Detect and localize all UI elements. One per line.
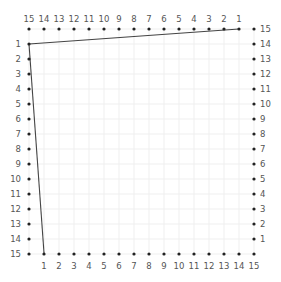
right-dot-13 — [252, 57, 255, 60]
right-label-1: 1 — [260, 234, 265, 244]
top-dot-1 — [237, 27, 240, 30]
bottom-dot-8 — [147, 252, 150, 255]
top-dot-15 — [27, 27, 30, 30]
right-dot-15 — [252, 27, 255, 30]
bottom-label-10: 10 — [174, 261, 185, 271]
top-label-15: 15 — [24, 14, 35, 24]
top-label-9: 9 — [116, 14, 121, 24]
right-dot-3 — [252, 207, 255, 210]
top-dot-11 — [87, 27, 90, 30]
left-label-3: 3 — [16, 69, 21, 79]
left-label-9: 9 — [16, 159, 21, 169]
bottom-label-12: 12 — [204, 261, 215, 271]
left-label-15: 15 — [10, 249, 21, 259]
left-label-12: 12 — [10, 204, 21, 214]
left-dot-13 — [27, 222, 30, 225]
left-label-8: 8 — [16, 144, 21, 154]
bottom-label-7: 7 — [131, 261, 136, 271]
bottom-dot-1 — [42, 252, 45, 255]
top-label-8: 8 — [131, 14, 136, 24]
right-dot-9 — [252, 117, 255, 120]
left-dot-11 — [27, 192, 30, 195]
left-dot-9 — [27, 162, 30, 165]
bottom-dot-14 — [237, 252, 240, 255]
bottom-label-9: 9 — [161, 261, 166, 271]
right-label-11: 11 — [260, 84, 271, 94]
top-dot-14 — [42, 27, 45, 30]
right-dot-7 — [252, 147, 255, 150]
right-label-2: 2 — [260, 219, 265, 229]
bottom-label-15: 15 — [249, 261, 260, 271]
left-label-10: 10 — [10, 174, 21, 184]
left-dot-1 — [27, 42, 30, 45]
bottom-label-2: 2 — [56, 261, 61, 271]
right-label-13: 13 — [260, 54, 271, 64]
right-dot-12 — [252, 72, 255, 75]
left-dot-4 — [27, 87, 30, 90]
left-label-2: 2 — [16, 54, 21, 64]
bottom-dot-2 — [57, 252, 60, 255]
top-dot-10 — [102, 27, 105, 30]
right-dot-6 — [252, 162, 255, 165]
left-dot-2 — [27, 57, 30, 60]
right-dot-8 — [252, 132, 255, 135]
axis-labels: 1514131211109876543211234567891011121314… — [10, 14, 271, 271]
bottom-dot-3 — [72, 252, 75, 255]
top-label-2: 2 — [221, 14, 226, 24]
right-dot-14 — [252, 42, 255, 45]
left-label-13: 13 — [10, 219, 21, 229]
bottom-dot-12 — [207, 252, 210, 255]
right-label-10: 10 — [260, 99, 271, 109]
left-dot-15 — [27, 252, 30, 255]
top-dot-7 — [147, 27, 150, 30]
background-grid — [29, 29, 254, 254]
top-dot-2 — [222, 27, 225, 30]
top-dot-12 — [72, 27, 75, 30]
bottom-label-4: 4 — [86, 261, 91, 271]
left-dot-10 — [27, 177, 30, 180]
top-dot-5 — [177, 27, 180, 30]
bottom-dot-10 — [177, 252, 180, 255]
bottom-label-6: 6 — [116, 261, 121, 271]
right-label-14: 14 — [260, 39, 271, 49]
right-label-8: 8 — [260, 129, 265, 139]
right-label-12: 12 — [260, 69, 271, 79]
top-label-14: 14 — [39, 14, 50, 24]
top-dot-4 — [192, 27, 195, 30]
top-label-10: 10 — [99, 14, 110, 24]
axis-dots — [27, 27, 255, 255]
top-label-11: 11 — [84, 14, 95, 24]
top-label-3: 3 — [206, 14, 211, 24]
left-label-6: 6 — [16, 114, 21, 124]
bottom-label-14: 14 — [234, 261, 245, 271]
top-label-4: 4 — [191, 14, 196, 24]
top-label-13: 13 — [54, 14, 65, 24]
right-label-9: 9 — [260, 114, 265, 124]
bottom-dot-15 — [252, 252, 255, 255]
top-label-12: 12 — [69, 14, 80, 24]
top-dot-8 — [132, 27, 135, 30]
bottom-dot-13 — [222, 252, 225, 255]
top-label-7: 7 — [146, 14, 151, 24]
bottom-dot-5 — [102, 252, 105, 255]
bottom-dot-4 — [87, 252, 90, 255]
bottom-label-11: 11 — [189, 261, 200, 271]
diagram-canvas: 1514131211109876543211234567891011121314… — [0, 0, 281, 282]
top-dot-3 — [207, 27, 210, 30]
left-label-4: 4 — [16, 84, 21, 94]
bottom-label-8: 8 — [146, 261, 151, 271]
left-label-11: 11 — [10, 189, 21, 199]
left-label-5: 5 — [16, 99, 21, 109]
right-dot-4 — [252, 192, 255, 195]
bottom-dot-7 — [132, 252, 135, 255]
left-dot-3 — [27, 72, 30, 75]
bottom-label-5: 5 — [101, 261, 106, 271]
bottom-dot-9 — [162, 252, 165, 255]
right-label-6: 6 — [260, 159, 265, 169]
string-art-diagram: 1514131211109876543211234567891011121314… — [0, 0, 281, 282]
right-dot-5 — [252, 177, 255, 180]
top-label-6: 6 — [161, 14, 166, 24]
bottom-label-1: 1 — [41, 261, 46, 271]
right-label-15: 15 — [260, 24, 271, 34]
left-dot-6 — [27, 117, 30, 120]
